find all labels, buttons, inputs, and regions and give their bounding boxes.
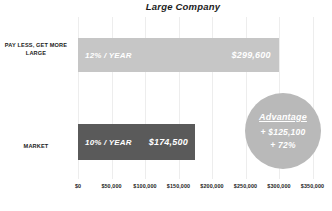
x-axis: $0 $50,000 $100,000 $150,000 $200,000 $2… [78,183,313,195]
bar-large-rate-label: 12% / YEAR [85,51,132,60]
x-tick-250000: $250,000 [234,183,257,189]
category-label-large-line2: LARGE [0,49,72,57]
bar-large-value-label: $299,600 [232,50,271,60]
x-tick-200000: $200,000 [200,183,223,189]
bar-large-company[interactable]: 12% / YEAR $299,600 [78,38,279,72]
advantage-title: Advantage [259,112,307,122]
x-tick-50000: $50,000 [101,183,121,189]
category-label-market: MARKET [0,142,72,150]
x-tick-150000: $150,000 [167,183,190,189]
bar-market-value-label: $174,500 [149,137,188,147]
advantage-amount: + $125,100 [261,126,306,139]
x-tick-350000: $350,000 [301,183,324,189]
category-label-large-line1: PAY LESS, GET MORE [0,41,72,49]
advantage-callout: Advantage + $125,100 + 72% [245,93,321,169]
bar-market[interactable]: 10% / YEAR $174,500 [78,124,195,160]
bar-market-rate-label: 10% / YEAR [85,138,132,147]
page-title: Large Company [0,1,332,12]
advantage-percent: + 72% [270,139,295,152]
category-label-large: PAY LESS, GET MORE LARGE [0,41,72,57]
x-tick-0: $0 [75,183,81,189]
x-tick-100000: $100,000 [133,183,156,189]
x-tick-300000: $300,000 [267,183,290,189]
category-label-market-line1: MARKET [0,142,72,150]
